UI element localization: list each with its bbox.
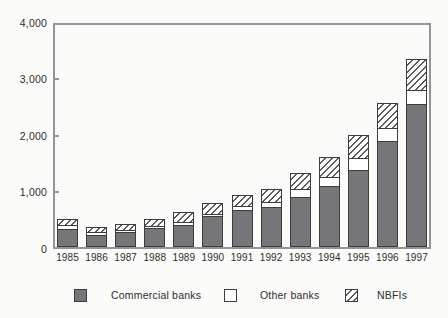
bar-1993 — [290, 173, 311, 247]
bar-segment-commercial-banks-1986 — [86, 235, 107, 247]
bar-segment-commercial-banks-1997 — [406, 104, 427, 247]
x-label-1993: 1993 — [286, 252, 315, 263]
bar-segment-commercial-banks-1996 — [377, 141, 398, 247]
bar-1989 — [173, 212, 194, 247]
legend-swatch-other-banks — [224, 289, 237, 302]
legend-swatch-nbfis — [345, 289, 358, 302]
bar-segment-commercial-banks-1993 — [290, 197, 311, 247]
bar-segment-nbfis-1994 — [319, 157, 340, 178]
x-label-1994: 1994 — [315, 252, 344, 263]
bar-1997 — [406, 59, 427, 247]
bar-segment-commercial-banks-1987 — [115, 232, 136, 247]
bar-1988 — [144, 219, 165, 247]
legend-swatch-commercial-banks — [74, 289, 87, 302]
bar-1994 — [319, 157, 340, 247]
bar-segment-nbfis-1995 — [348, 135, 369, 159]
y-label-4000: 4,000 — [0, 17, 47, 29]
plot-area — [53, 23, 431, 249]
bar-1990 — [202, 203, 223, 247]
bar-segment-nbfis-1993 — [290, 173, 311, 190]
y-label-3000: 3,000 — [0, 73, 47, 85]
legend-label-other-banks: Other banks — [260, 289, 319, 302]
bar-segment-other-banks-1996 — [377, 128, 398, 142]
bar-1986 — [86, 227, 107, 247]
bar-segment-nbfis-1997 — [406, 59, 427, 91]
x-label-1991: 1991 — [227, 252, 256, 263]
bar-segment-commercial-banks-1985 — [57, 229, 78, 247]
y-tick-2000 — [54, 135, 59, 137]
bar-1991 — [232, 195, 253, 247]
bar-1995 — [348, 135, 369, 247]
x-axis-labels: 1985198619871988198919901991199219931994… — [53, 252, 431, 263]
bar-segment-commercial-banks-1988 — [144, 228, 165, 247]
bar-segment-commercial-banks-1990 — [202, 216, 223, 247]
stacked-bar-chart-figure: 1985198619871988198919901991199219931994… — [0, 0, 448, 318]
bar-segment-nbfis-1996 — [377, 103, 398, 129]
bar-1987 — [115, 224, 136, 247]
x-label-1996: 1996 — [373, 252, 402, 263]
x-label-1985: 1985 — [53, 252, 82, 263]
bar-segment-commercial-banks-1994 — [319, 186, 340, 247]
bar-1996 — [377, 103, 398, 247]
bar-1985 — [57, 219, 78, 247]
x-label-1987: 1987 — [111, 252, 140, 263]
x-label-1995: 1995 — [344, 252, 373, 263]
bar-segment-commercial-banks-1991 — [232, 210, 253, 247]
y-label-1000: 1,000 — [0, 186, 47, 198]
legend-label-nbfis: NBFIs — [377, 289, 407, 302]
bar-segment-commercial-banks-1989 — [173, 225, 194, 247]
y-tick-1000 — [54, 191, 59, 193]
bar-segment-other-banks-1997 — [406, 90, 427, 105]
x-label-1989: 1989 — [169, 252, 198, 263]
bar-segment-nbfis-1992 — [261, 189, 282, 203]
x-label-1986: 1986 — [82, 252, 111, 263]
x-label-1997: 1997 — [402, 252, 431, 263]
bar-segment-commercial-banks-1995 — [348, 170, 369, 247]
y-tick-3000 — [54, 78, 59, 80]
legend-label-commercial-banks: Commercial banks — [111, 289, 201, 302]
x-label-1990: 1990 — [198, 252, 227, 263]
bar-1992 — [261, 189, 282, 247]
x-label-1988: 1988 — [140, 252, 169, 263]
bar-segment-commercial-banks-1992 — [261, 207, 282, 247]
y-label-2000: 2,000 — [0, 130, 47, 142]
x-label-1992: 1992 — [257, 252, 286, 263]
y-label-0: 0 — [0, 243, 47, 255]
